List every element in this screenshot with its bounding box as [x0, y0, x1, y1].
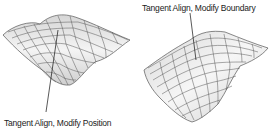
left-surface [3, 15, 130, 112]
diagram-canvas [0, 0, 273, 137]
left-surface-label: Tangent Align, Modify Position [4, 118, 111, 128]
right-surface-label: Tangent Align, Modify Boundary [142, 3, 256, 13]
right-surface [144, 13, 268, 122]
